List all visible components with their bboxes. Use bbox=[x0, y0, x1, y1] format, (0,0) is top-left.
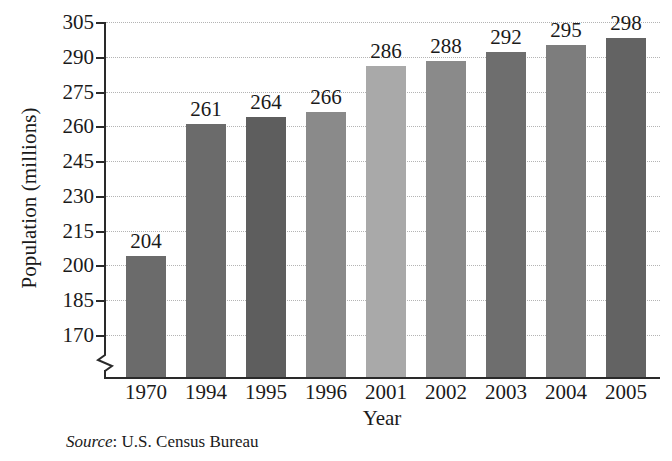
bar-value-label: 295 bbox=[535, 20, 597, 41]
bar-value-label: 292 bbox=[475, 27, 537, 48]
y-tickmark bbox=[96, 92, 105, 94]
y-tickmark bbox=[96, 161, 105, 163]
bar bbox=[246, 117, 286, 377]
x-tick-label: 2004 bbox=[535, 382, 597, 403]
y-tick-label: 275 bbox=[38, 82, 94, 103]
bar bbox=[606, 38, 646, 377]
x-tick-label: 1994 bbox=[175, 382, 237, 403]
y-tick-label: 260 bbox=[38, 116, 94, 137]
y-tickmark bbox=[96, 126, 105, 128]
y-tick-label: 185 bbox=[38, 290, 94, 311]
bar-value-label: 288 bbox=[415, 36, 477, 57]
y-tick-label: 170 bbox=[38, 325, 94, 346]
y-tickmark bbox=[96, 231, 105, 233]
y-tickmark bbox=[96, 22, 105, 24]
bar bbox=[186, 124, 226, 377]
source-label: Source bbox=[66, 432, 113, 451]
y-tickmark bbox=[96, 265, 105, 267]
y-tickmark bbox=[96, 335, 105, 337]
y-tickmark bbox=[96, 196, 105, 198]
bar-value-label: 286 bbox=[355, 41, 417, 62]
axis-break-icon bbox=[95, 348, 117, 374]
x-axis-title: Year bbox=[104, 408, 660, 429]
source-note: Source: U.S. Census Bureau bbox=[66, 432, 259, 451]
x-tick-label: 1970 bbox=[115, 382, 177, 403]
y-tick-label: 230 bbox=[38, 186, 94, 207]
y-tick-label: 200 bbox=[38, 255, 94, 276]
x-tick-label: 2005 bbox=[595, 382, 657, 403]
bar-value-label: 261 bbox=[175, 99, 237, 120]
bar-value-label: 204 bbox=[115, 231, 177, 252]
y-tickmark bbox=[96, 300, 105, 302]
bar-value-label: 266 bbox=[295, 87, 357, 108]
y-tickmark bbox=[96, 57, 105, 59]
bar bbox=[366, 66, 406, 377]
x-tick-label: 2003 bbox=[475, 382, 537, 403]
y-tick-label: 215 bbox=[38, 221, 94, 242]
y-tick-label: 305 bbox=[38, 12, 94, 33]
bar bbox=[426, 61, 466, 377]
x-tick-label: 1996 bbox=[295, 382, 357, 403]
y-tick-label: 245 bbox=[38, 151, 94, 172]
x-tick-label: 2002 bbox=[415, 382, 477, 403]
x-tick-label: 1995 bbox=[235, 382, 297, 403]
y-axis-line bbox=[104, 22, 106, 352]
bar-value-label: 264 bbox=[235, 92, 297, 113]
bar bbox=[306, 112, 346, 377]
y-tick-label: 290 bbox=[38, 47, 94, 68]
x-axis-line bbox=[104, 377, 660, 379]
x-tick-label: 2001 bbox=[355, 382, 417, 403]
bar-value-label: 298 bbox=[595, 13, 657, 34]
bar bbox=[486, 52, 526, 377]
plot-area: 204261264266286288292295298 bbox=[104, 22, 660, 377]
population-bar-chart: Population (millions) 170185200215230245… bbox=[0, 0, 672, 461]
y-axis-tick-labels: 170185200215230245260275290305 bbox=[36, 22, 94, 377]
bar bbox=[126, 256, 166, 377]
source-separator: : bbox=[113, 432, 122, 451]
bar bbox=[546, 45, 586, 377]
source-text: U.S. Census Bureau bbox=[122, 432, 259, 451]
